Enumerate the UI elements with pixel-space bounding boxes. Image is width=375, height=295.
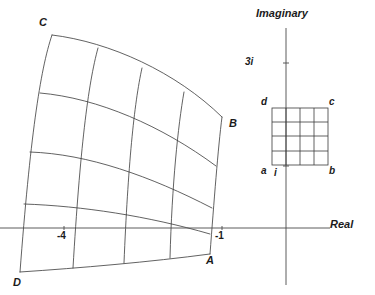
square-corner-label-c: c <box>329 97 335 107</box>
square-corner-label-b: b <box>329 166 335 176</box>
square-region-grid <box>272 108 328 165</box>
tick-label-minus-4: -4 <box>57 231 66 241</box>
mapped-corner-label-A: A <box>206 255 214 266</box>
axes-group <box>0 28 330 285</box>
mapped-radial-2 <box>124 68 142 263</box>
mapped-corner-label-C: C <box>39 17 47 28</box>
mapped-corner-label-D: D <box>13 277 21 288</box>
square-corner-label-a: a <box>261 166 267 176</box>
mapped-arc-3 <box>24 204 210 234</box>
tick-label-i: i <box>274 168 277 178</box>
real-axis-label: Real <box>330 219 353 230</box>
figure-canvas <box>0 0 375 295</box>
tick-label-minus-1: -1 <box>215 231 224 241</box>
mapped-arc-1 <box>40 93 216 166</box>
mapped-arc-0 <box>52 35 222 117</box>
imaginary-axis-label: Imaginary <box>256 8 308 19</box>
conformal-mapping-figure: Imaginary Real 3i i -4 -1 C B A D d c a … <box>0 0 375 295</box>
square-corner-label-d: d <box>261 97 267 107</box>
mapped-arc-2 <box>30 152 212 208</box>
tick-label-3i: 3i <box>245 57 253 67</box>
mapped-radial-3 <box>170 92 184 258</box>
mapped-arc-4 <box>20 254 210 272</box>
mapped-region-grid <box>20 35 222 272</box>
mapped-corner-label-B: B <box>229 118 237 129</box>
